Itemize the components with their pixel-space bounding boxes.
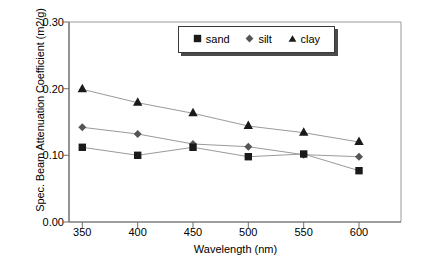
- chart-legend: sand silt clay: [178, 26, 335, 53]
- square-marker-icon: [193, 34, 202, 45]
- legend-item-silt: silt: [245, 34, 271, 45]
- x-tick-label-350: 350: [62, 226, 102, 238]
- x-tick-label-450: 450: [173, 226, 213, 238]
- beam-attenuation-chart: Spec. Beam Attenuation Coefficient (m2/g…: [0, 0, 437, 265]
- legend-item-sand: sand: [193, 34, 230, 45]
- legend-item-clay: clay: [288, 34, 321, 45]
- x-tick-label-400: 400: [118, 226, 158, 238]
- x-tick-label-600: 600: [339, 226, 379, 238]
- triangle-marker-icon: [288, 34, 297, 45]
- y-tick-marks: [63, 22, 69, 222]
- diamond-marker-icon: [245, 34, 254, 45]
- legend-label-clay: clay: [301, 34, 321, 45]
- legend-label-silt: silt: [258, 34, 271, 45]
- x-tick-label-550: 550: [284, 226, 324, 238]
- legend-label-sand: sand: [206, 34, 230, 45]
- x-axis-tick-labels: 350 400 450 500 550 600: [0, 226, 437, 242]
- x-tick-label-500: 500: [228, 226, 268, 238]
- series-line-clay: [82, 89, 359, 142]
- series-line-sand: [82, 147, 359, 170]
- series-lines: [82, 89, 359, 170]
- x-axis-title: Wavelength (nm): [69, 243, 402, 255]
